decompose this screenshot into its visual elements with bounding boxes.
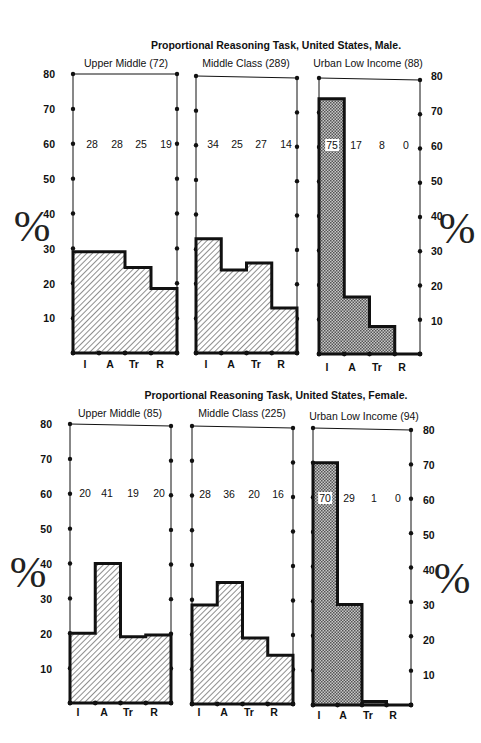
panel-1-0: [68, 422, 174, 706]
value-label: 36: [223, 488, 235, 500]
value-label: 1: [371, 492, 377, 504]
x-label: Tr: [123, 706, 133, 718]
x-label: A: [339, 709, 347, 721]
panel-1-1: [190, 424, 296, 707]
x-label: I: [318, 709, 321, 721]
x-label: I: [198, 706, 201, 718]
x-label: R: [270, 706, 278, 718]
x-label: A: [100, 706, 108, 718]
value-label: 16: [272, 488, 284, 500]
value-label: 29: [343, 492, 355, 504]
value-label: 19: [127, 487, 139, 499]
x-label: Tr: [244, 706, 254, 718]
value-label: 20: [153, 487, 165, 499]
x-label: I: [77, 706, 80, 718]
panel-1-2: [311, 426, 414, 708]
value-label: 20: [79, 487, 91, 499]
x-label: R: [150, 706, 158, 718]
x-label: A: [220, 706, 228, 718]
value-label: 70: [318, 492, 332, 504]
x-label: R: [389, 709, 397, 721]
value-label: 28: [199, 488, 211, 500]
x-label: Tr: [363, 709, 373, 721]
value-label: 20: [248, 488, 260, 500]
plot-area-female: [0, 0, 481, 743]
value-label: 0: [395, 492, 401, 504]
value-label: 41: [101, 487, 113, 499]
